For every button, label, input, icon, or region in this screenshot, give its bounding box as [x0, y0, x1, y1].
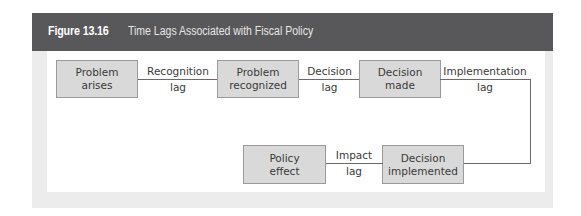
figure-header: Figure 13.16 Time Lags Associated with F… — [32, 13, 553, 51]
edge-recognition-lag — [138, 79, 218, 80]
node-label-line1: Problem — [76, 66, 119, 79]
edge-label-top: Implementation — [440, 65, 530, 78]
node-decision-implemented: Decision implemented — [382, 145, 464, 184]
node-policy-effect: Policy effect — [243, 145, 326, 184]
edge-impact-lag — [325, 163, 383, 164]
edge-label-bottom: lag — [138, 81, 218, 94]
node-label-line1: Decision — [388, 152, 458, 165]
figure-title: Time Lags Associated with Fiscal Policy — [128, 24, 313, 38]
node-problem-arises: Problem arises — [56, 60, 138, 98]
edge-label-top: Decision — [299, 65, 360, 78]
figure-number: Figure 13.16 — [48, 24, 109, 38]
node-label-line2: arises — [76, 79, 119, 92]
node-label-line1: Policy — [269, 152, 299, 165]
edge-label-bottom: lag — [325, 165, 383, 178]
edge-label-bottom: lag — [299, 81, 360, 94]
edge-implementation-lag-vertical — [530, 79, 531, 164]
edge-label-bottom: lag — [440, 81, 530, 94]
node-problem-recognized: Problem recognized — [217, 60, 299, 98]
edge-decision-lag — [299, 79, 360, 80]
edge-implementation-lag-return — [463, 163, 531, 164]
edge-implementation-lag — [440, 79, 531, 80]
node-label-line2: implemented — [388, 165, 458, 178]
node-label-line2: made — [378, 79, 423, 92]
node-label-line2: recognized — [229, 79, 287, 92]
edge-label-top: Impact — [325, 149, 383, 162]
node-decision-made: Decision made — [359, 60, 441, 98]
edge-label-top: Recognition — [138, 65, 218, 78]
node-label-line1: Problem — [229, 66, 287, 79]
node-label-line1: Decision — [378, 66, 423, 79]
node-label-line2: effect — [269, 165, 299, 178]
